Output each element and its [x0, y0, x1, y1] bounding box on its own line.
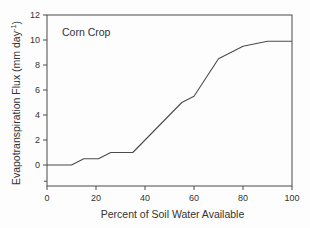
- y-axis-tick-label: 8: [35, 60, 40, 70]
- chart-title: Corn Crop: [62, 26, 111, 38]
- y-axis-tick-label: 4: [35, 110, 40, 120]
- y-axis-tick-label: 0: [35, 160, 40, 170]
- y-axis-title: Evapotranspiration Flux (mm day-1): [9, 21, 22, 185]
- x-axis-tick-label: 0: [44, 193, 49, 203]
- corn-crop-figure: 024681012020406080100Corn CropPercent of…: [0, 0, 310, 228]
- y-axis-tick-label: 2: [35, 135, 40, 145]
- x-axis-title: Percent of Soil Water Available: [101, 208, 245, 220]
- x-axis-tick-label: 60: [189, 193, 199, 203]
- x-axis-tick-label: 40: [140, 193, 150, 203]
- y-axis-tick-label: 12: [30, 10, 40, 20]
- y-axis-tick-label: 6: [35, 85, 40, 95]
- y-axis-tick-label: 10: [30, 35, 40, 45]
- x-axis-tick-label: 20: [91, 193, 101, 203]
- x-axis-tick-label: 80: [238, 193, 248, 203]
- corn-crop-chart: 024681012020406080100Corn CropPercent of…: [0, 0, 310, 228]
- x-axis-tick-label: 100: [284, 193, 299, 203]
